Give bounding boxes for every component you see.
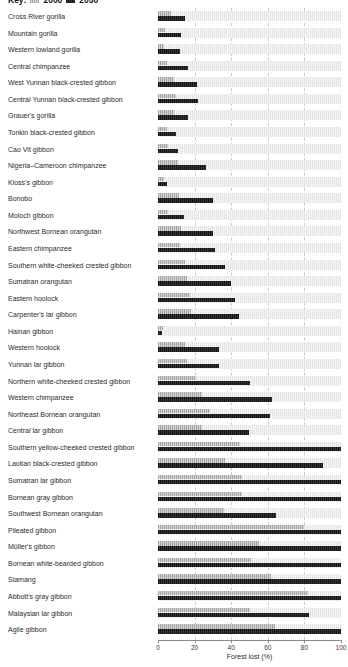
- bar-2050: [158, 182, 167, 187]
- tick-mark-100: [341, 640, 342, 643]
- bar-group: [158, 309, 341, 319]
- bar-group: [158, 326, 341, 336]
- bar-2050: [158, 99, 198, 104]
- species-label: Sumatran lar gibbon: [8, 475, 156, 486]
- bar-2050: [158, 530, 341, 535]
- species-label: Grauer's gorilla: [8, 110, 156, 121]
- species-label: Northwest Bornean orangutan: [8, 226, 156, 237]
- forest-loss-chart: Key: 2000 2050 Cross River gorilla Mount…: [0, 0, 348, 667]
- species-label: Cross River gorilla: [8, 11, 156, 22]
- bar-group: [158, 28, 341, 38]
- bar-2000: [158, 243, 180, 248]
- bar-group: [158, 11, 341, 21]
- bar-2050: [158, 265, 225, 270]
- bar-2000: [158, 342, 185, 347]
- species-label: Central chimpanzee: [8, 61, 156, 72]
- bar-2000: [158, 376, 196, 381]
- bar-2050: [158, 215, 184, 220]
- tick-label-80: 80: [301, 644, 308, 652]
- bar-group: [158, 61, 341, 71]
- species-label: Southern white-cheeked crested gibbon: [8, 260, 156, 271]
- bar-group: [158, 77, 341, 87]
- bar-2000: [158, 574, 271, 579]
- chart-row: Central lar gibbon: [8, 425, 341, 436]
- bar-track: [158, 28, 341, 38]
- bar-track: [158, 177, 341, 187]
- bar-2000: [158, 442, 240, 447]
- bar-2000: [158, 525, 304, 530]
- legend-label-2050: 2050: [79, 0, 98, 5]
- chart-row: Nigeria–Cameroon chimpanzee: [8, 160, 341, 171]
- bar-group: [158, 392, 341, 402]
- bar-group: [158, 458, 341, 468]
- chart-row: Bornean white-bearded gibbon: [8, 558, 341, 569]
- bar-2050: [158, 579, 341, 584]
- bar-2000: [158, 260, 185, 265]
- species-label: Bornean gray gibbon: [8, 492, 156, 503]
- chart-row: Western lowland gorilla: [8, 44, 341, 55]
- chart-row: Northeast Bornean orangutan: [8, 409, 341, 420]
- bar-2000: [158, 558, 251, 563]
- chart-row: West Yunnan black-crested gibbon: [8, 77, 341, 88]
- chart-row: Bornean gray gibbon: [8, 492, 341, 503]
- bar-track: [158, 144, 341, 154]
- bar-group: [158, 276, 341, 286]
- bar-group: [158, 193, 341, 203]
- species-label: Southwest Bornean orangutan: [8, 508, 156, 519]
- bar-2000: [158, 591, 308, 596]
- bar-group: [158, 293, 341, 303]
- bar-group: [158, 127, 341, 137]
- bar-2000: [158, 475, 242, 480]
- bar-group: [158, 558, 341, 568]
- bar-2000: [158, 127, 167, 132]
- bar-2000: [158, 28, 165, 33]
- chart-row: Central Yunnan black-crested gibbon: [8, 94, 341, 105]
- bar-2050: [158, 629, 341, 634]
- bar-2000: [158, 392, 202, 397]
- species-label: Nigeria–Cameroon chimpanzee: [8, 160, 156, 171]
- bar-2050: [158, 115, 188, 120]
- chart-row: Mountain gorilla: [8, 28, 341, 39]
- chart-row: Hainan gibbon: [8, 326, 341, 337]
- x-axis-title: Forest lost (%): [158, 653, 341, 660]
- bar-2050: [158, 497, 341, 502]
- chart-row: Laotian black-crested gibbon: [8, 458, 341, 469]
- bar-group: [158, 492, 341, 502]
- species-label: Yunnan lar gibbon: [8, 359, 156, 370]
- bar-group: [158, 44, 341, 54]
- species-label: Carpenter's lar gibbon: [8, 309, 156, 320]
- chart-row: Malaysian lar gibbon: [8, 608, 341, 619]
- bar-2000: [158, 94, 176, 99]
- bar-2000: [158, 11, 171, 16]
- tick-mark-20: [195, 640, 196, 643]
- bar-group: [158, 591, 341, 601]
- bar-group: [158, 226, 341, 236]
- bar-2050: [158, 480, 341, 485]
- chart-row: Müller's gibbon: [8, 541, 341, 552]
- bar-2000: [158, 309, 191, 314]
- bar-2000: [158, 177, 164, 182]
- bar-2000: [158, 110, 174, 115]
- species-label: Laotian black-crested gibbon: [8, 458, 156, 469]
- bar-group: [158, 442, 341, 452]
- bar-group: [158, 376, 341, 386]
- bar-2050: [158, 231, 213, 236]
- chart-row: Sumatran lar gibbon: [8, 475, 341, 486]
- chart-row: Southern yellow-cheeked crested gibbon: [8, 442, 341, 453]
- bar-2050: [158, 447, 341, 452]
- species-label: Central lar gibbon: [8, 425, 156, 436]
- bar-2050: [158, 82, 197, 87]
- bar-2000: [158, 624, 275, 629]
- bar-2000: [158, 508, 224, 513]
- bar-2050: [158, 364, 219, 369]
- bar-2000: [158, 210, 168, 215]
- species-label: Western chimpanzee: [8, 392, 156, 403]
- tick-mark-60: [268, 640, 269, 643]
- bar-2050: [158, 198, 213, 203]
- bar-track: [158, 44, 341, 54]
- chart-row: Eastern hoolock: [8, 293, 341, 304]
- bar-2000: [158, 293, 190, 298]
- tick-label-60: 60: [264, 644, 271, 652]
- species-label: Müller's gibbon: [8, 541, 156, 552]
- species-label: Pileated gibbon: [8, 525, 156, 536]
